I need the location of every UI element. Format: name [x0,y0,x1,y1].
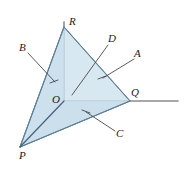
leader-line-A [103,59,134,78]
vertex-label-Q: Q [131,87,139,98]
face-label-B: B [19,42,26,53]
leader-line-C [86,112,115,131]
face-label-D: D [108,33,116,44]
vertex-label-R: R [69,16,76,27]
face-label-C: C [116,128,123,139]
vertex-label-O: O [52,94,60,105]
figure-canvas [0,0,188,173]
face-label-A: A [134,48,141,59]
geometry-figure: R O Q P B D A C [0,0,188,173]
vertex-label-P: P [19,150,26,161]
